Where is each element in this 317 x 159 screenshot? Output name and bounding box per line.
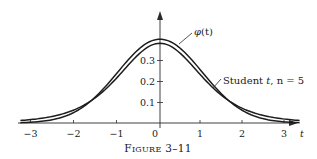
x-tick-label: −3 <box>23 128 37 139</box>
x-tick-label: −2 <box>66 128 80 139</box>
y-tick-label: 0.1 <box>140 97 155 108</box>
figure: −3 −2 −1 0 1 2 3 t 0.3 0.2 0.1 φ(t) Stud… <box>0 0 317 159</box>
y-tick-label: 0.2 <box>140 76 155 87</box>
phi-leader-line <box>179 33 192 44</box>
chart-svg: −3 −2 −1 0 1 2 3 t 0.3 0.2 0.1 φ(t) Stud… <box>0 0 317 159</box>
y-axis-arrow-icon <box>157 11 163 20</box>
x-tick-label: 3 <box>281 128 287 139</box>
y-tick-labels: 0.3 0.2 0.1 <box>140 55 155 108</box>
x-tick-label: −1 <box>109 128 123 139</box>
figure-caption: FIGURE 3–11 <box>124 142 191 154</box>
phi-label: φ(t) <box>194 26 213 37</box>
x-tick-label: 0 <box>152 128 158 139</box>
student-label: Student t, n = 5 <box>223 75 304 86</box>
x-tick-label: 2 <box>239 128 245 139</box>
x-axis-label: t <box>300 128 304 139</box>
y-tick-label: 0.3 <box>140 55 155 66</box>
x-tick-labels: −3 −2 −1 0 1 2 3 <box>23 128 287 139</box>
student-leader-line <box>213 79 221 88</box>
x-tick-label: 1 <box>197 128 203 139</box>
